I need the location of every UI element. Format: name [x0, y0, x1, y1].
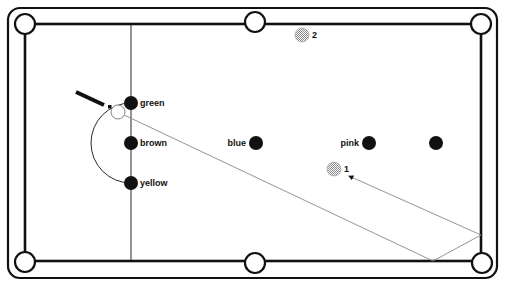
cue-ball-icon [111, 105, 125, 119]
ball-label-blue: blue [227, 138, 246, 148]
pocket-top-left-icon [15, 14, 35, 34]
cue-stick-shaft [76, 92, 104, 105]
ball-label-pink: pink [340, 138, 359, 148]
ball-black-icon [429, 136, 443, 150]
ball-green-icon [124, 96, 138, 110]
pocket-top-right-icon [471, 14, 491, 34]
pocket-bottom-left-icon [15, 252, 35, 272]
ball-2-label: 2 [312, 30, 317, 40]
ball-label-yellow: yellow [140, 178, 169, 188]
ball-1-label: 1 [344, 164, 349, 174]
ball-pink-icon [362, 136, 376, 150]
cue-tip [108, 105, 112, 109]
ball-label-brown: brown [140, 138, 167, 148]
ball-blue-icon [249, 136, 263, 150]
ball-brown-icon [124, 136, 138, 150]
balls: greenbrownyellowbluepink [111, 96, 443, 190]
ball-yellow-icon [124, 176, 138, 190]
snooker-table-diagram: greenbrownyellowbluepink 12 [0, 0, 505, 286]
pocket-bottom-middle-icon [245, 253, 265, 273]
ball-1-icon [327, 162, 341, 176]
numbered-balls: 12 [295, 28, 349, 176]
shot-path [122, 114, 481, 261]
pocket-top-middle-icon [245, 12, 265, 32]
pocket-bottom-right-icon [472, 253, 492, 273]
ball-2-icon [295, 28, 309, 42]
ball-label-green: green [140, 98, 165, 108]
cue-stick [76, 92, 112, 109]
shot-path-line [122, 114, 481, 261]
